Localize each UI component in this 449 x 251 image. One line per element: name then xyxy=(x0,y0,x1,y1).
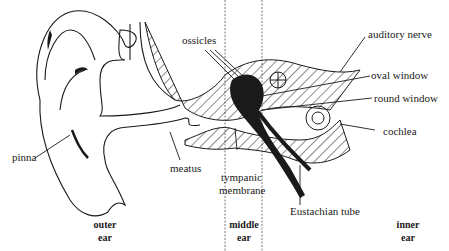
region-inner-ear: inner ear xyxy=(388,218,428,244)
region-middle-line2: ear xyxy=(222,231,266,244)
label-oval-window: oval window xyxy=(371,69,428,81)
region-outer-line2: ear xyxy=(85,231,125,244)
region-middle-line1: middle xyxy=(222,218,266,231)
label-round-window: round window xyxy=(374,92,438,104)
label-membrane: membrane xyxy=(219,184,265,196)
label-pinna: pinna xyxy=(12,151,36,163)
leader-lines xyxy=(35,37,375,205)
region-outer-ear: outer ear xyxy=(85,218,125,244)
region-outer-line1: outer xyxy=(85,218,125,231)
label-meatus: meatus xyxy=(170,162,201,174)
label-auditory-nerve: auditory nerve xyxy=(368,28,432,40)
region-middle-ear: middle ear xyxy=(222,218,266,244)
label-ossicles: ossicles xyxy=(182,34,216,46)
label-eustachian-tube: Eustachian tube xyxy=(290,205,360,217)
region-inner-line2: ear xyxy=(388,231,428,244)
label-tympanic: tympanic xyxy=(221,171,262,183)
label-cochlea: cochlea xyxy=(383,125,417,137)
helix-dark xyxy=(72,130,88,158)
antihelix-dark xyxy=(47,30,52,50)
pinna-shape xyxy=(37,11,200,216)
region-inner-line1: inner xyxy=(388,218,428,231)
